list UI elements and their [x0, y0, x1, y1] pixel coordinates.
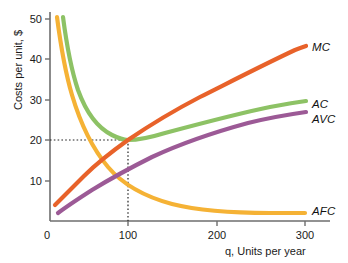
y-tick-label-20: 20 [16, 134, 42, 146]
curve-label-avc: AVC [312, 113, 336, 125]
x-tick-label-300: 300 [285, 229, 325, 241]
curve-mc [55, 46, 306, 205]
y-tick-label-10: 10 [16, 175, 42, 187]
x-tick-label-100: 100 [108, 229, 148, 241]
curve-afc [57, 17, 305, 213]
x-tick-label-0: 0 [27, 229, 67, 241]
x-tick-label-200: 200 [197, 229, 237, 241]
y-axis-title: Costs per unit, $ [12, 30, 24, 110]
curve-label-ac: AC [312, 98, 328, 110]
curve-label-afc: AFC [312, 205, 336, 217]
curve-label-mc: MC [312, 41, 330, 53]
cost-curves-figure: 50 40 30 20 10 0 100 200 300 Costs per u… [0, 0, 348, 263]
y-tick-label-50: 50 [16, 13, 42, 25]
x-axis-title: q, Units per year [225, 245, 306, 257]
chart-plot-area [0, 0, 348, 263]
curve-ac [63, 17, 306, 140]
